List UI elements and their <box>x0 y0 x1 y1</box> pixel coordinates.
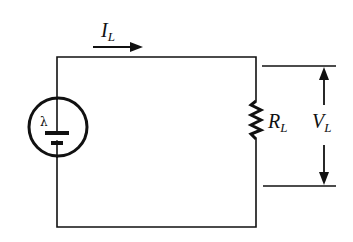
circuit-loop-wire <box>57 57 256 227</box>
lambda-symbol: λ <box>40 116 48 128</box>
battery-short-plate <box>51 141 63 145</box>
photovoltaic-source-icon <box>29 98 87 156</box>
voltage-label: VL <box>312 111 331 134</box>
load-resistor-icon <box>251 101 261 139</box>
resistor-label-main: R <box>268 110 280 132</box>
resistor-label: RL <box>268 111 287 134</box>
battery-long-plate <box>45 131 69 135</box>
circuit-diagram: IL RL VL λ <box>0 0 353 242</box>
resistor-label-subscript: L <box>280 120 287 135</box>
current-label-subscript: L <box>108 29 115 44</box>
current-label-main: I <box>101 19 108 41</box>
voltage-label-main: V <box>312 110 324 132</box>
voltage-arrow-up-icon <box>319 67 329 80</box>
voltage-arrow-down-icon <box>319 172 329 185</box>
current-arrow-icon <box>130 42 143 52</box>
circuit-drawing <box>0 0 353 242</box>
voltage-label-subscript: L <box>324 120 331 135</box>
current-label: IL <box>101 20 115 43</box>
